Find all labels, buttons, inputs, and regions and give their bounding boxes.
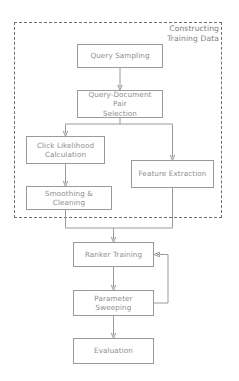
- node-qd-pair-selection-label-line-2: Selection: [103, 109, 137, 118]
- node-query-sampling-label: Query Sampling: [90, 51, 149, 60]
- node-click-likelihood-label-line-2: Calculation: [45, 150, 86, 159]
- node-parameter-sweeping[interactable]: Parameter Sweeping: [73, 290, 154, 316]
- node-ranker-training-label: Ranker Training: [85, 250, 142, 259]
- node-click-likelihood-label: Click Likelihood Calculation: [37, 141, 94, 160]
- node-qd-pair-selection-label: Query-Document Pair Selection: [81, 90, 159, 118]
- node-query-sampling[interactable]: Query Sampling: [77, 44, 163, 68]
- node-ranker-training[interactable]: Ranker Training: [73, 242, 154, 267]
- node-parameter-sweeping-label: Parameter Sweeping: [77, 294, 150, 313]
- node-qd-pair-selection[interactable]: Query-Document Pair Selection: [77, 90, 163, 118]
- edge-feedback-parameter-sweeping-to-ranker-training: [154, 255, 168, 304]
- group-label-line-2: Training Data: [151, 34, 219, 44]
- flowchart-diagram: Constructing Training Data Q: [0, 0, 239, 381]
- node-evaluation-label: Evaluation: [94, 346, 133, 355]
- node-evaluation[interactable]: Evaluation: [73, 338, 154, 364]
- node-qd-pair-selection-label-line-1: Query-Document Pair: [89, 90, 152, 108]
- group-label-line-1: Constructing: [151, 24, 219, 34]
- node-smoothing-cleaning-label: Smoothing & Cleaning: [30, 189, 108, 208]
- node-smoothing-cleaning[interactable]: Smoothing & Cleaning: [26, 186, 112, 210]
- node-feature-extraction[interactable]: Feature Extraction: [131, 160, 214, 188]
- node-click-likelihood-label-line-1: Click Likelihood: [37, 141, 94, 150]
- constructing-training-data-group-label: Constructing Training Data: [151, 24, 219, 43]
- node-click-likelihood[interactable]: Click Likelihood Calculation: [26, 136, 105, 164]
- node-feature-extraction-label: Feature Extraction: [139, 169, 207, 178]
